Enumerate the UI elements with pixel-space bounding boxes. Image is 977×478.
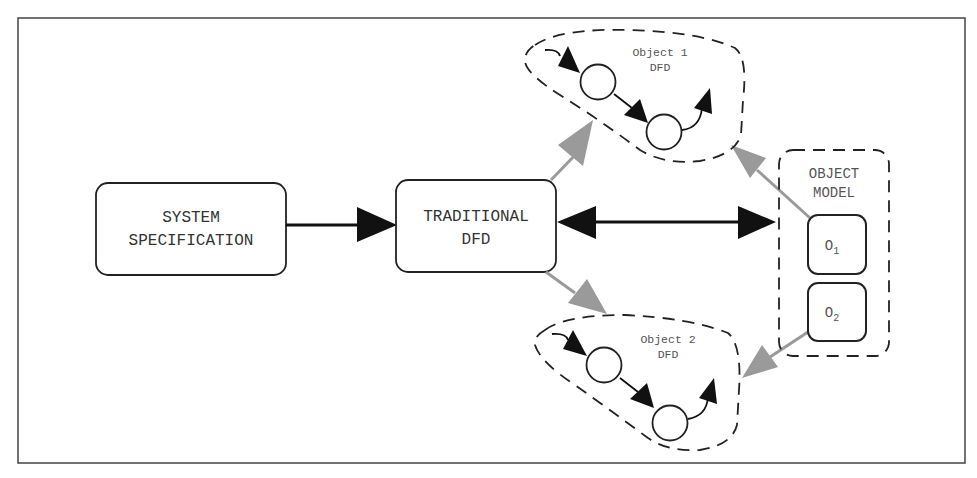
traditional-line2: DFD <box>462 231 491 249</box>
system-spec-line1: SYSTEM <box>162 209 220 227</box>
object2-dfd-node: Object 2 DFD <box>535 315 740 450</box>
object1-label-line1: Object 1 <box>632 46 687 59</box>
arrow-traditional-object-model <box>557 206 776 239</box>
system-spec-line2: SPECIFICATION <box>129 232 254 250</box>
object-model-line1: OBJECT <box>809 166 859 182</box>
object2-label-line2: DFD <box>658 348 679 361</box>
object-o1: O1 <box>808 215 866 274</box>
object-model-node: OBJECT MODEL O1 O2 <box>779 150 889 356</box>
arrow-spec-to-traditional <box>286 207 397 242</box>
object1-dfd-node: Object 1 DFD <box>525 30 744 162</box>
object-model-line2: MODEL <box>813 185 855 201</box>
object-o2: O2 <box>808 283 866 341</box>
arrow-traditional-to-object2 <box>546 272 607 314</box>
traditional-line1: TRADITIONAL <box>423 208 529 226</box>
traditional-dfd-node: TRADITIONAL DFD <box>396 180 556 272</box>
object2-label-line1: Object 2 <box>640 333 695 346</box>
arrow-o2-to-object2 <box>742 332 808 378</box>
arrow-o1-to-object1 <box>731 145 810 218</box>
o2-sub: 2 <box>833 313 839 324</box>
system-specification-node: SYSTEM SPECIFICATION <box>96 183 286 275</box>
object1-label-line2: DFD <box>650 61 671 74</box>
o1-base: O <box>825 238 833 254</box>
o2-base: O <box>825 305 833 321</box>
diagram-canvas: SYSTEM SPECIFICATION TRADITIONAL DFD <box>0 0 977 478</box>
o1-sub: 1 <box>833 246 839 257</box>
arrow-traditional-to-object1 <box>551 120 593 180</box>
